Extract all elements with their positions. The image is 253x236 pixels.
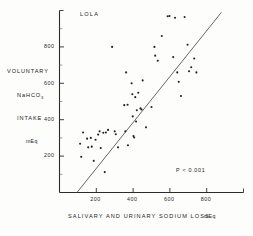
data-point <box>136 109 138 111</box>
data-point <box>145 126 147 128</box>
y-axis-title-line-voluntary: VOLUNTARY <box>7 69 49 75</box>
data-point <box>188 70 190 72</box>
x-tick-label: 200 <box>90 197 101 202</box>
data-point <box>150 106 152 108</box>
data-point <box>141 108 143 110</box>
data-point <box>90 137 92 139</box>
data-point-group <box>79 15 197 173</box>
regression-line <box>77 12 221 192</box>
data-point <box>184 16 186 18</box>
data-point <box>161 35 163 37</box>
data-point <box>153 46 155 48</box>
data-point <box>97 134 99 136</box>
data-point <box>125 71 127 73</box>
data-point <box>111 46 113 48</box>
data-point <box>100 147 102 149</box>
data-point <box>142 79 144 81</box>
data-point <box>134 96 136 98</box>
axis-group <box>60 11 244 193</box>
data-point <box>80 156 82 158</box>
nahco3-subscript: 3 <box>41 95 44 100</box>
data-point <box>105 131 107 133</box>
data-point <box>131 82 133 84</box>
data-point <box>193 57 195 59</box>
data-point <box>114 130 116 132</box>
y-axis-unit-label: mEq <box>26 139 38 144</box>
data-point <box>107 129 109 131</box>
y-tick-label: 400 <box>44 117 55 122</box>
y-tick-label: 800 <box>44 44 55 49</box>
data-point <box>123 104 125 106</box>
data-point <box>115 133 117 135</box>
data-point <box>117 146 119 148</box>
data-point <box>180 95 182 97</box>
data-point <box>135 120 137 122</box>
data-point <box>127 144 129 146</box>
data-point <box>187 44 189 46</box>
data-point <box>132 115 134 117</box>
data-point <box>131 93 133 95</box>
data-point <box>91 146 93 148</box>
data-point <box>99 130 101 132</box>
data-point <box>195 71 197 73</box>
y-tick-group <box>60 29 65 175</box>
data-point <box>172 56 174 58</box>
regression-line-group <box>77 12 221 192</box>
data-point <box>174 17 176 19</box>
data-point <box>167 15 169 17</box>
data-point <box>137 92 139 94</box>
x-axis-caption: SALIVARY AND URINARY SODIUM LOSS <box>68 214 210 220</box>
y-axis-title-line-intake: INTAKE <box>17 116 42 122</box>
x-tick-label: 800 <box>201 197 212 202</box>
panel-title-label: LOLA <box>80 12 99 18</box>
x-tick-label: 600 <box>164 197 175 202</box>
figure-panel: LOLA P < 0.001 VOLUNTARY NaHCO3 INTAKE m… <box>0 0 253 236</box>
data-point <box>127 104 129 106</box>
nahco3-base: NaHCO <box>17 92 41 98</box>
data-point <box>157 60 159 62</box>
x-tick-label: 400 <box>127 197 138 202</box>
y-axis-title-line-nahco3: NaHCO3 <box>17 93 44 100</box>
data-point <box>133 136 135 138</box>
data-point <box>124 130 126 132</box>
data-point <box>154 55 156 57</box>
data-point <box>79 143 81 145</box>
y-tick-label: 600 <box>44 81 55 86</box>
data-point <box>86 138 88 140</box>
data-point <box>102 132 104 134</box>
data-point <box>87 146 89 148</box>
x-tick-group <box>96 188 206 193</box>
data-point <box>178 81 180 83</box>
data-point <box>104 171 106 173</box>
data-point <box>82 131 84 133</box>
data-point <box>190 66 192 68</box>
data-point <box>176 71 178 73</box>
data-point <box>95 139 97 141</box>
y-tick-label: 200 <box>44 153 55 158</box>
x-axis-unit-label: mEq <box>204 214 216 219</box>
p-value-annotation: P < 0.001 <box>176 168 205 173</box>
data-point <box>93 160 95 162</box>
data-point <box>168 15 170 17</box>
